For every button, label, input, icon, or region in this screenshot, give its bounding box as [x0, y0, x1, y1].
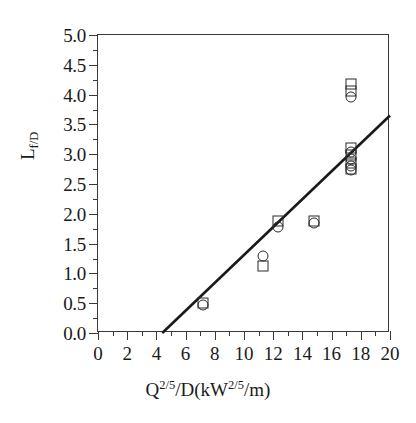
y-axis-tick-major [89, 95, 98, 96]
y-axis-tick-label: 4.5 [63, 55, 86, 74]
data-point-circle [272, 221, 283, 232]
y-axis-tick-major [89, 154, 98, 155]
x-axis-tick-minor [375, 331, 376, 336]
x-axis-tick-label: 10 [235, 344, 254, 363]
x-axis-tick-minor [288, 331, 289, 336]
y-axis-tick-label: 5.0 [63, 26, 86, 45]
y-axis-title-base: L [17, 148, 38, 160]
data-point-circle [257, 251, 268, 262]
y-axis-tick-label: 2.0 [63, 204, 86, 223]
x-axis-tick-label: 6 [181, 344, 191, 363]
x-axis-tick-label: 18 [351, 344, 370, 363]
x-axis-title-sup-2: 2/5 [228, 378, 244, 392]
x-axis-tick-minor [229, 331, 230, 336]
chart-figure: Lf/D 0.00.51.01.52.02.53.03.54.04.55.002… [0, 0, 416, 423]
x-axis-tick-major [156, 331, 157, 340]
x-axis-tick-minor [317, 331, 318, 336]
data-point-square [257, 260, 268, 271]
x-axis-tick-minor [200, 331, 201, 336]
x-axis-tick-major [244, 331, 245, 340]
x-axis-tick-major [127, 331, 128, 340]
x-axis-tick-minor [259, 331, 260, 336]
y-axis-tick-label: 0.5 [63, 294, 86, 313]
x-axis-title-tail: /m) [244, 379, 270, 400]
x-axis-tick-label: 12 [264, 344, 283, 363]
y-axis-tick-label: 1.0 [63, 264, 86, 283]
y-axis-tick-label: 4.0 [63, 85, 86, 104]
data-point-circle [345, 164, 356, 175]
y-axis-title: Lf/D [18, 132, 40, 160]
y-axis-tick-major [89, 273, 98, 274]
x-axis-tick-major [273, 331, 274, 340]
x-axis-tick-label: 16 [322, 344, 341, 363]
y-axis-tick-major [89, 65, 98, 66]
y-axis-tick-label: 0.0 [63, 324, 86, 343]
x-axis-tick-label: 20 [381, 344, 400, 363]
plot-area: 0.00.51.01.52.02.53.03.54.04.55.00246810… [97, 34, 389, 332]
x-axis-tick-label: 2 [122, 344, 132, 363]
y-axis-tick-major [89, 303, 98, 304]
y-axis-tick-label: 2.5 [63, 175, 86, 194]
x-axis-tick-major [98, 331, 99, 340]
data-point-circle [345, 91, 356, 102]
x-axis-tick-minor [171, 331, 172, 336]
x-axis-title-sup-1: 2/5 [159, 378, 175, 392]
x-axis-title-mid: /D(kW [175, 379, 228, 400]
y-axis-tick-label: 3.5 [63, 115, 86, 134]
y-axis-tick-major [89, 244, 98, 245]
x-axis-tick-major [186, 331, 187, 340]
x-axis-tick-label: 14 [293, 344, 312, 363]
y-axis-tick-major [89, 124, 98, 125]
y-axis-tick-major [89, 214, 98, 215]
x-axis-tick-minor [142, 331, 143, 336]
x-axis-tick-label: 0 [93, 344, 103, 363]
y-axis-tick-major [89, 333, 98, 334]
x-axis-tick-minor [346, 331, 347, 336]
x-axis-tick-major [390, 331, 391, 340]
x-axis-tick-major [302, 331, 303, 340]
y-axis-tick-label: 3.0 [63, 145, 86, 164]
y-axis-tick-major [89, 35, 98, 36]
data-point-circle [198, 299, 209, 310]
x-axis-tick-label: 8 [210, 344, 220, 363]
data-point-circle [309, 218, 320, 229]
x-axis-tick-major [215, 331, 216, 340]
x-axis-title-base: Q [146, 379, 160, 400]
x-axis-tick-label: 4 [152, 344, 162, 363]
x-axis-tick-major [332, 331, 333, 340]
y-axis-tick-label: 1.5 [63, 234, 86, 253]
y-axis-title-subscript: f/D [27, 132, 41, 149]
x-axis-title: Q2/5/D(kW2/5/m) [0, 378, 416, 401]
x-axis-tick-minor [113, 331, 114, 336]
x-axis-tick-major [361, 331, 362, 340]
y-axis-tick-major [89, 184, 98, 185]
